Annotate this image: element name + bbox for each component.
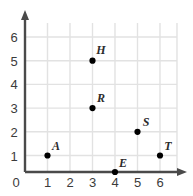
point-S	[134, 129, 140, 135]
x-tick-label-1: 1	[41, 176, 55, 189]
x-axis-arrowhead	[177, 168, 187, 176]
y-tick-label-4: 4	[7, 78, 21, 91]
point-A	[44, 152, 50, 158]
y-tick-label-5: 5	[7, 54, 21, 67]
point-R	[89, 105, 95, 111]
point-label-H: H	[96, 44, 105, 56]
x-tick-label-2: 2	[63, 176, 77, 189]
y-tick-label-3: 3	[7, 102, 21, 115]
x-tick-label-6: 6	[153, 176, 167, 189]
point-label-A: A	[52, 140, 60, 152]
x-tick-label-4: 4	[108, 176, 122, 189]
x-tick-label-3: 3	[86, 176, 100, 189]
y-tick-label-6: 6	[7, 31, 21, 44]
point-label-S: S	[143, 116, 150, 128]
point-T	[157, 152, 163, 158]
point-label-T: T	[164, 140, 171, 152]
point-H	[89, 58, 95, 64]
coordinate-plane-figure: 0 1 2 3 4 5 6 1 2 3 4 5 6 A H R S T E	[0, 0, 193, 196]
y-tick-label-2: 2	[7, 125, 21, 138]
x-tick-label-5: 5	[131, 176, 145, 189]
x-tick-label-0: 0	[9, 176, 23, 189]
y-axis-arrowhead	[21, 10, 29, 20]
y-tick-label-1: 1	[7, 149, 21, 162]
point-label-E: E	[119, 157, 127, 169]
point-label-R: R	[97, 92, 105, 104]
